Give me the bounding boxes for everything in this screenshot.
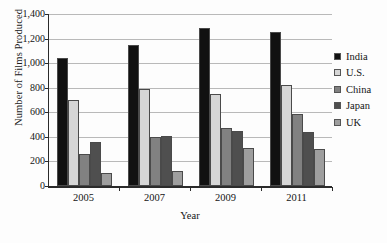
bar[interactable] [161,136,172,186]
bar[interactable] [303,132,314,186]
bar[interactable] [172,171,183,186]
y-axis-title: Number of Films Produced [13,0,24,148]
legend: IndiaU.S.ChinaJapanUK [334,48,371,131]
legend-swatch-icon [334,86,341,93]
bar[interactable] [90,142,101,186]
y-tick-label: 1,200 [5,34,45,44]
bar[interactable] [314,149,325,186]
x-axis-line [48,186,332,188]
legend-label: UK [346,117,361,128]
bar-group [57,14,112,186]
y-tick-label: 400 [5,132,45,142]
legend-label: India [346,51,368,62]
legend-label: China [346,84,371,95]
bar[interactable] [232,131,243,186]
bar-group [128,14,183,186]
bar[interactable] [79,154,90,186]
x-tick-mark [119,187,120,191]
y-tick-label: 1,000 [5,58,45,68]
y-axis-line [48,14,49,187]
legend-swatch-icon [334,119,341,126]
bar-chart: Number of Films Produced 02004006008001,… [0,0,387,243]
y-tick-label: 600 [5,107,45,117]
bar-group [199,14,254,186]
y-tick-label: 1,400 [5,9,45,19]
bar[interactable] [101,173,112,187]
bar-group [270,14,325,186]
legend-item-uk[interactable]: UK [334,114,371,131]
y-tick-label: 800 [5,83,45,93]
bar[interactable] [199,28,210,186]
legend-item-japan[interactable]: Japan [334,98,371,115]
bar[interactable] [243,148,254,186]
legend-item-india[interactable]: India [334,48,371,65]
bar[interactable] [270,32,281,186]
bar[interactable] [210,94,221,186]
legend-swatch-icon [334,53,341,60]
x-tick-label: 2005 [54,192,114,203]
bar[interactable] [128,45,139,186]
bar[interactable] [281,85,292,186]
y-tick-label: 200 [5,156,45,166]
x-tick-label: 2009 [196,192,256,203]
bar[interactable] [292,114,303,186]
x-tick-label: 2011 [267,192,327,203]
legend-label: U.S. [346,67,365,78]
x-tick-mark [190,187,191,191]
bar[interactable] [57,58,68,186]
legend-swatch-icon [334,69,341,76]
plot-area [48,14,332,187]
legend-item-us[interactable]: U.S. [334,65,371,82]
y-tick-label: 0 [5,181,45,191]
legend-item-china[interactable]: China [334,81,371,98]
bar[interactable] [68,100,79,186]
x-tick-label: 2007 [125,192,185,203]
bar[interactable] [150,137,161,186]
legend-label: Japan [346,100,370,111]
bar[interactable] [221,128,232,186]
x-tick-mark [261,187,262,191]
x-tick-mark [332,187,333,191]
bar[interactable] [139,89,150,186]
legend-swatch-icon [334,102,341,109]
x-axis-title: Year [48,210,332,221]
